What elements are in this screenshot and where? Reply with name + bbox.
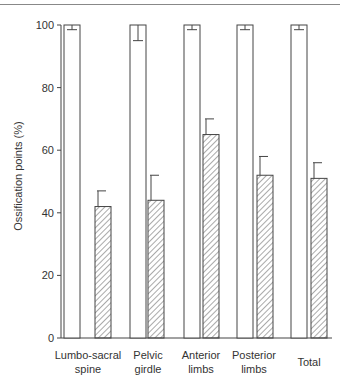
open-bar (291, 25, 307, 338)
bar-chart: 020406080100 (0, 0, 340, 389)
y-tick-label: 80 (42, 82, 54, 94)
y-tick-label: 60 (42, 144, 54, 156)
hatched-bar (203, 135, 219, 338)
y-axis-label: Ossification points (%) (12, 106, 24, 246)
hatched-bar (148, 200, 164, 338)
hatched-bar (95, 207, 111, 338)
y-tick-label: 100 (36, 19, 54, 31)
open-bar (130, 25, 146, 338)
y-tick-label: 0 (48, 332, 54, 344)
x-category-label: Total (274, 355, 340, 369)
hatched-bar (311, 178, 327, 338)
open-bar (237, 25, 253, 338)
open-bar (184, 25, 200, 338)
y-tick-label: 40 (42, 207, 54, 219)
open-bar (64, 25, 80, 338)
bars (64, 25, 327, 338)
y-tick-label: 20 (42, 269, 54, 281)
hatched-bar (257, 175, 273, 338)
